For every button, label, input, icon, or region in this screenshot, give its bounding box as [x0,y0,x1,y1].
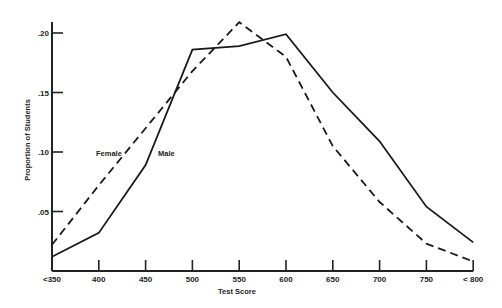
label-male: Male [158,149,175,158]
x-tick-label: 650 [326,275,340,284]
y-tick-label: .20 [38,29,50,38]
y-tick-label: .05 [38,208,50,217]
x-tick-label: 600 [279,275,293,284]
x-tick-label: 400 [92,275,106,284]
x-tick-label: 750 [420,275,434,284]
series-female-line [52,22,473,261]
y-tick-label: .10 [38,148,50,157]
x-tick-label: < 800 [463,275,484,284]
y-tick-label: .15 [38,89,50,98]
x-tick-label: 550 [233,275,247,284]
series-male-line [52,34,473,257]
series-lines [52,22,473,261]
x-tick-label: 500 [186,275,200,284]
x-axis-title: Test Score [218,287,256,296]
x-tick-label: <350 [43,275,62,284]
x-tick-label: 700 [373,275,387,284]
line-chart: .05.10.15.20 <35040045050055060065070075… [0,0,502,308]
y-axis: .05.10.15.20 [38,22,63,271]
label-female: Female [96,149,122,158]
y-axis-title: Proportion of Students [23,99,32,181]
series-labels: FemaleMale [96,149,175,158]
x-axis: <350400450500550600650700750< 800 [43,260,484,284]
x-tick-label: 450 [139,275,153,284]
